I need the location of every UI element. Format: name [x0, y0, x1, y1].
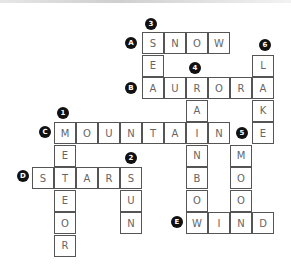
crossword-cell[interactable]: I [186, 122, 208, 144]
crossword-cell[interactable]: T [54, 167, 76, 189]
clue-number-badge: 6 [259, 39, 271, 51]
crossword-cell[interactable]: O [186, 190, 208, 212]
crossword-cell[interactable]: M [54, 122, 76, 144]
crossword-cell[interactable]: O [186, 32, 208, 54]
crossword-cell[interactable]: N [230, 212, 252, 234]
clue-number-badge: A [125, 37, 137, 49]
crossword-cell[interactable]: S [32, 167, 54, 189]
clue-number-badge: C [39, 126, 51, 138]
crossword-cell[interactable]: E [54, 145, 76, 167]
clue-number-badge: 2 [125, 152, 137, 164]
crossword-cell[interactable]: M [230, 145, 252, 167]
crossword-cell[interactable]: A [252, 77, 274, 99]
crossword-cell[interactable]: O [230, 190, 252, 212]
crossword-cell[interactable]: R [98, 167, 120, 189]
crossword-cell[interactable]: A [164, 122, 186, 144]
clue-number-badge: 5 [236, 127, 248, 139]
crossword-cell[interactable]: N [164, 32, 186, 54]
crossword-cell[interactable]: I [208, 212, 230, 234]
crossword-cell[interactable]: N [120, 122, 142, 144]
crossword-cell[interactable]: S [120, 167, 142, 189]
crossword-cell[interactable]: N [186, 145, 208, 167]
crossword-cell[interactable]: U [164, 77, 186, 99]
clue-number-badge: 1 [57, 107, 69, 119]
crossword-cell[interactable]: R [230, 77, 252, 99]
crossword-cell[interactable]: B [186, 167, 208, 189]
clue-number-badge: 3 [145, 18, 157, 30]
crossword-cell[interactable]: A [76, 167, 98, 189]
crossword-cell[interactable]: N [120, 212, 142, 234]
crossword-cell[interactable]: E [252, 122, 274, 144]
crossword-cell[interactable]: O [54, 212, 76, 234]
clue-number-badge: 4 [189, 62, 201, 74]
clue-number-badge: D [17, 170, 29, 182]
crossword-cell[interactable]: S [142, 32, 164, 54]
crossword-cell[interactable]: E [54, 190, 76, 212]
crossword-grid: SNOWAURORAMOUNTAINSTARSWINDEEORUNEANBOMO… [0, 0, 291, 273]
crossword-cell[interactable]: O [230, 167, 252, 189]
crossword-cell[interactable]: K [252, 100, 274, 122]
crossword-cell[interactable]: L [252, 55, 274, 77]
crossword-cell[interactable]: U [98, 122, 120, 144]
crossword-cell[interactable]: N [208, 122, 230, 144]
crossword-cell[interactable]: U [120, 190, 142, 212]
clue-number-badge: E [171, 216, 183, 228]
crossword-cell[interactable]: R [186, 77, 208, 99]
crossword-cell[interactable]: W [186, 212, 208, 234]
crossword-cell[interactable]: D [252, 212, 274, 234]
crossword-cell[interactable]: T [142, 122, 164, 144]
crossword-cell[interactable]: A [186, 100, 208, 122]
crossword-cell[interactable]: E [142, 55, 164, 77]
crossword-cell[interactable]: O [208, 77, 230, 99]
crossword-cell[interactable]: O [76, 122, 98, 144]
crossword-cell[interactable]: R [54, 235, 76, 257]
crossword-cell[interactable]: W [208, 32, 230, 54]
crossword-cell[interactable]: A [142, 77, 164, 99]
clue-number-badge: B [125, 82, 137, 94]
